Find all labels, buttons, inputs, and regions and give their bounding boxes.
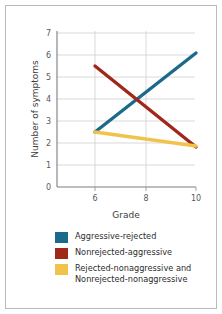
legend-swatch-icon bbox=[55, 248, 68, 259]
x-axis-title: Grade bbox=[112, 210, 140, 220]
line-chart: 0 1 2 3 4 5 6 7 6 8 10 Number of symptom… bbox=[0, 0, 222, 225]
y-axis-title: Number of symptoms bbox=[30, 60, 40, 158]
y-tick-label-2: 2 bbox=[46, 139, 51, 148]
legend-item-nonaggressive: Rejected-nonaggressive and Nonrejected-n… bbox=[55, 263, 215, 284]
y-tick-label-7: 7 bbox=[46, 29, 51, 38]
x-tick-label-6: 6 bbox=[92, 194, 97, 203]
x-tick-marks bbox=[95, 187, 196, 191]
y-tick-label-0: 0 bbox=[46, 183, 51, 192]
legend-swatch-icon bbox=[55, 264, 68, 275]
plot-area: 0 1 2 3 4 5 6 7 6 8 10 Number of symptom… bbox=[0, 0, 222, 225]
y-tick-label-3: 3 bbox=[46, 117, 51, 126]
x-tick-label-10: 10 bbox=[191, 194, 201, 203]
series-line-aggressive-rejected bbox=[95, 53, 196, 132]
figure-container: 0 1 2 3 4 5 6 7 6 8 10 Number of symptom… bbox=[0, 0, 222, 314]
y-tick-label-5: 5 bbox=[46, 73, 51, 82]
chart-legend: Aggressive-rejected Nonrejected-aggressi… bbox=[55, 231, 215, 288]
legend-item-aggressive-rejected: Aggressive-rejected bbox=[55, 231, 215, 243]
y-tick-label-4: 4 bbox=[46, 95, 51, 104]
legend-label: Aggressive-rejected bbox=[75, 231, 156, 242]
legend-label: Rejected-nonaggressive and Nonrejected-n… bbox=[75, 263, 191, 284]
legend-item-nonrejected-aggressive: Nonrejected-aggressive bbox=[55, 247, 215, 259]
y-tick-label-6: 6 bbox=[46, 51, 51, 60]
legend-label: Nonrejected-aggressive bbox=[75, 247, 172, 258]
horizontal-gridlines bbox=[57, 33, 195, 165]
legend-swatch-icon bbox=[55, 232, 68, 243]
y-tick-label-1: 1 bbox=[46, 161, 51, 170]
x-tick-label-8: 8 bbox=[143, 194, 148, 203]
vertical-gridlines bbox=[95, 31, 146, 187]
